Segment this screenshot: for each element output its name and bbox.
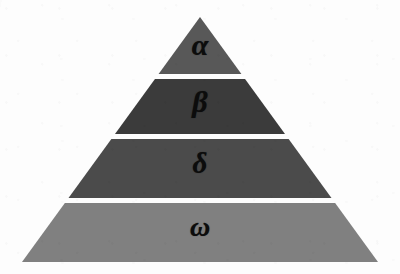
pyramid-tier-2-label: β xyxy=(192,87,207,117)
pyramid-tier-3-label: δ xyxy=(193,149,208,178)
pyramid-diagram-canvas: α β δ ω xyxy=(0,0,400,274)
pyramid-tier-1-label: α xyxy=(192,30,209,60)
pyramid-tier-4-label: ω xyxy=(190,213,210,241)
